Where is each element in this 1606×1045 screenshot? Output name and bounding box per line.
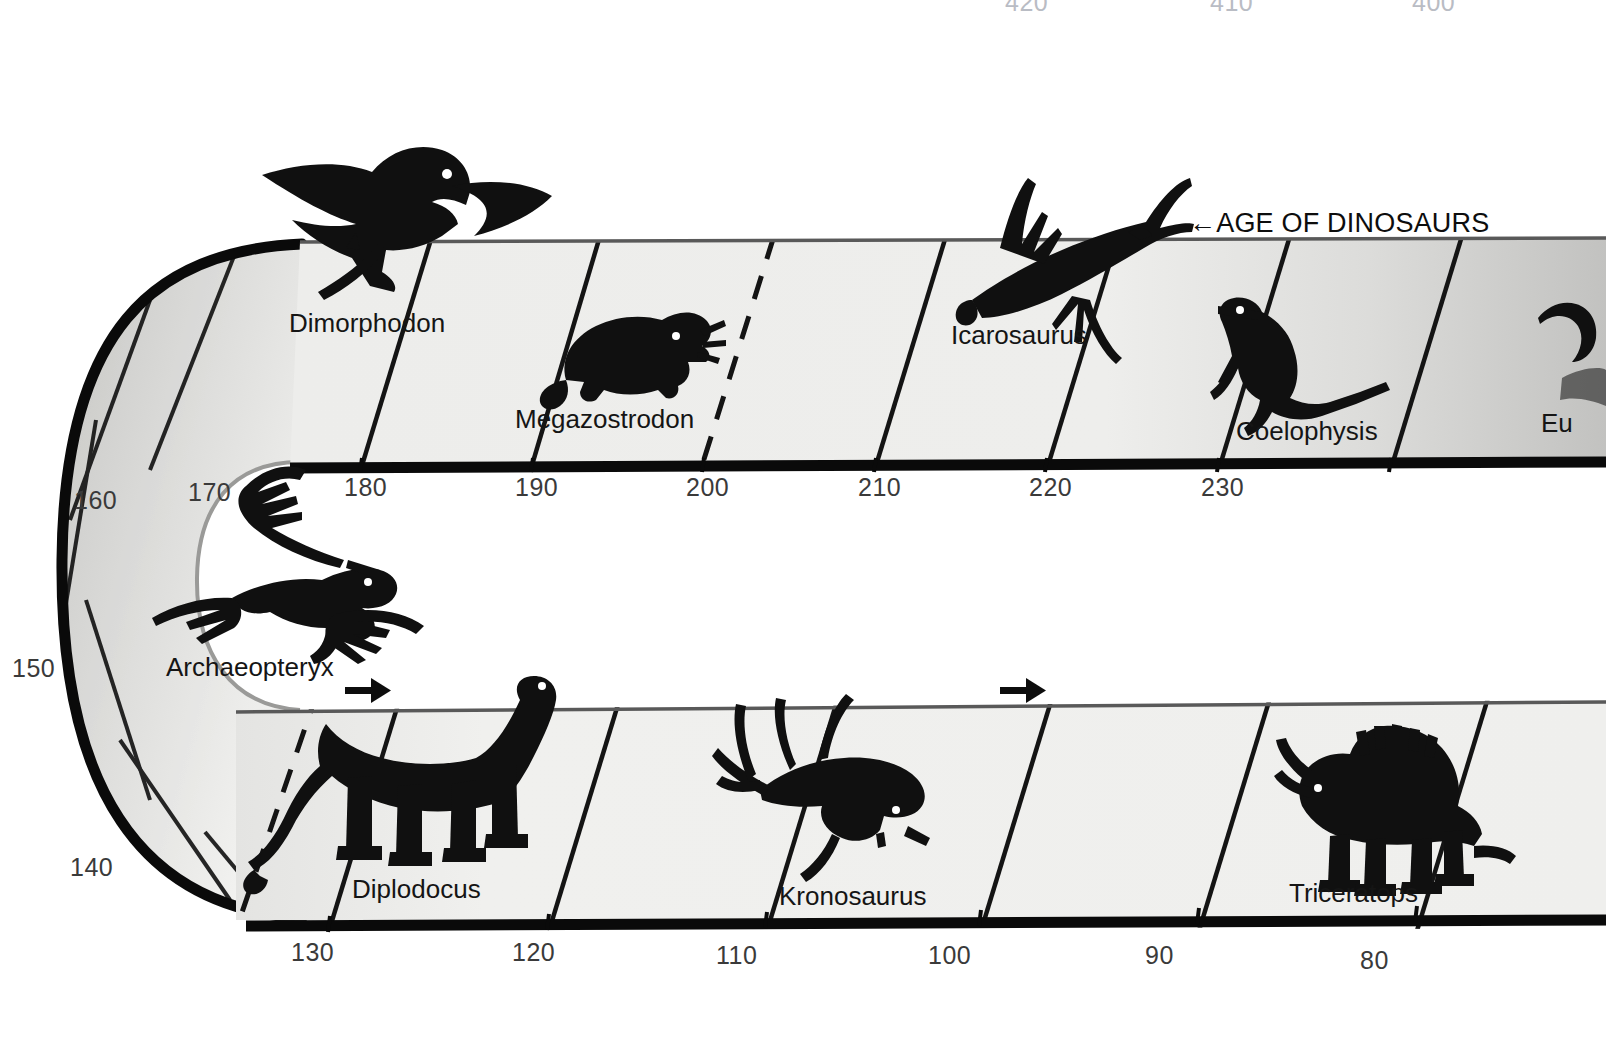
tick-label-200: 200 — [686, 473, 729, 502]
tick-label-80: 80 — [1360, 946, 1389, 975]
species-label-icarosaurus: Icarosaurus — [951, 320, 1087, 351]
species-label-kronosaurus: Kronosaurus — [779, 881, 926, 912]
tick-label-160: 160 — [74, 486, 117, 515]
tick-label-190: 190 — [515, 473, 558, 502]
tick-label-230: 230 — [1201, 473, 1244, 502]
species-label-euparkeria-clipped: Eu — [1541, 408, 1573, 439]
tick-label-130: 130 — [291, 938, 334, 967]
tick-label-150: 150 — [12, 654, 55, 683]
species-label-megazostrodon: Megazostrodon — [515, 404, 694, 435]
age-of-dinosaurs-text: AGE OF DINOSAURS — [1216, 208, 1489, 238]
tick-label-110: 110 — [716, 941, 757, 970]
figure-canvas: 420 410 400 ←AGE OF DINOSAURS Dimorphodo… — [0, 0, 1606, 1045]
species-label-triceratops: Triceratops — [1289, 878, 1418, 909]
species-label-coelophysis: Coelophysis — [1236, 416, 1378, 447]
tick-label-180: 180 — [344, 473, 387, 502]
tick-label-170: 170 — [188, 478, 231, 507]
species-label-diplodocus: Diplodocus — [352, 874, 481, 905]
species-label-archaeopteryx: Archaeopteryx — [166, 652, 334, 683]
tick-label-210: 210 — [858, 473, 901, 502]
age-of-dinosaurs-caption: ←AGE OF DINOSAURS — [1189, 208, 1489, 239]
left-arrow-icon: ← — [1189, 208, 1216, 238]
top-clipped-tick: 410 — [1210, 0, 1253, 17]
top-clipped-tick: 420 — [1005, 0, 1048, 17]
upper-band-segment — [290, 236, 1606, 472]
tick-label-90: 90 — [1145, 941, 1174, 970]
tick-label-220: 220 — [1029, 473, 1072, 502]
top-clipped-tick: 400 — [1412, 0, 1455, 17]
species-label-dimorphodon: Dimorphodon — [289, 308, 445, 339]
tick-label-120: 120 — [512, 938, 555, 967]
tick-label-100: 100 — [928, 941, 971, 970]
tick-label-140: 140 — [70, 853, 113, 882]
